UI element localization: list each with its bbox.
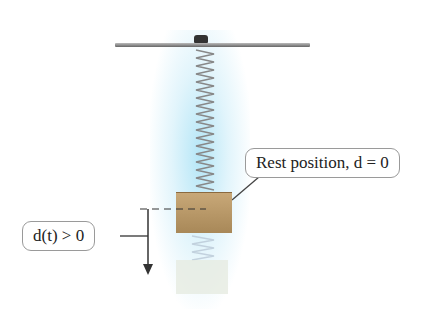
- rest-position-label: Rest position, d = 0: [245, 148, 400, 178]
- displacement-label: d(t) > 0: [22, 221, 95, 251]
